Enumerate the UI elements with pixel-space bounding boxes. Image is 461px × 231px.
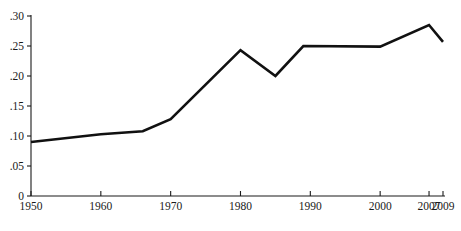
y-tick-label: .05 bbox=[10, 160, 25, 172]
chart-figure: 0.05.10.15.20.25.30 19501960197019801990… bbox=[0, 0, 461, 231]
x-tick-label: 2009 bbox=[432, 200, 455, 212]
x-axis: 19501960197019801990200020072009 bbox=[20, 191, 455, 212]
x-tick-label: 1980 bbox=[229, 200, 252, 212]
y-tick-label: .25 bbox=[10, 40, 25, 52]
data-series-group bbox=[31, 25, 443, 142]
line-chart-canvas: 0.05.10.15.20.25.30 19501960197019801990… bbox=[0, 0, 461, 231]
x-axis-tick-labels: 19501960197019801990200020072009 bbox=[20, 200, 455, 212]
y-axis-ticks bbox=[27, 16, 31, 196]
x-tick-label: 2000 bbox=[369, 200, 392, 212]
y-tick-label: .20 bbox=[10, 70, 25, 82]
x-tick-label: 1950 bbox=[20, 200, 43, 212]
x-tick-label: 1970 bbox=[159, 200, 182, 212]
x-tick-label: 1990 bbox=[299, 200, 322, 212]
y-axis-tick-labels: 0.05.10.15.20.25.30 bbox=[10, 10, 25, 202]
y-tick-label: .30 bbox=[10, 10, 25, 22]
y-tick-label: .15 bbox=[10, 100, 25, 112]
data-line-series-1 bbox=[31, 25, 443, 142]
y-axis: 0.05.10.15.20.25.30 bbox=[10, 10, 31, 202]
x-tick-label: 1960 bbox=[89, 200, 112, 212]
y-tick-label: .10 bbox=[10, 130, 25, 142]
x-axis-ticks bbox=[31, 191, 443, 196]
